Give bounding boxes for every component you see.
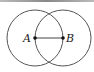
two-circles-diagram: A B	[0, 0, 94, 72]
point-b	[61, 36, 65, 40]
label-a: A	[22, 32, 31, 45]
label-b: B	[65, 32, 74, 45]
point-a	[33, 36, 37, 40]
